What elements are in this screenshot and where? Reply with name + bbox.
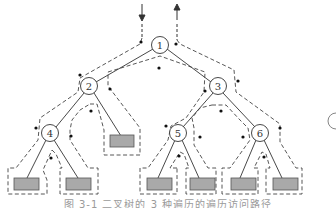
null-leaf-5-right xyxy=(190,178,215,190)
visit-dots xyxy=(34,40,281,159)
svg-text:6: 6 xyxy=(257,128,263,139)
null-leaves xyxy=(14,135,298,190)
partial-node-right xyxy=(328,113,336,129)
svg-text:3: 3 xyxy=(215,81,221,92)
node-5: 5 xyxy=(170,125,187,142)
svg-text:2: 2 xyxy=(86,81,92,92)
node-4: 4 xyxy=(42,125,59,142)
traversal-path xyxy=(8,38,302,194)
figure-caption: 图 3-1 二叉树的 3 种遍历的遍历访问路径 xyxy=(0,199,336,208)
svg-text:5: 5 xyxy=(175,128,181,139)
exit-arrow xyxy=(174,4,180,40)
tree-nodes: 1 2 3 4 5 6 xyxy=(42,37,269,142)
svg-text:4: 4 xyxy=(47,128,53,139)
null-leaf-6-left xyxy=(231,178,256,190)
node-2: 2 xyxy=(81,78,98,95)
null-leaf-2-right xyxy=(110,135,134,147)
tree-traversal-diagram: 1 2 3 4 5 6 xyxy=(0,0,336,208)
null-leaf-4-right xyxy=(66,178,91,190)
null-leaf-5-left xyxy=(147,178,172,190)
node-1: 1 xyxy=(152,37,169,54)
node-6: 6 xyxy=(252,125,269,142)
null-leaf-4-left xyxy=(14,178,39,190)
svg-text:1: 1 xyxy=(157,40,163,51)
null-leaf-6-right xyxy=(273,178,298,190)
node-3: 3 xyxy=(210,78,227,95)
entry-arrow xyxy=(139,4,145,38)
